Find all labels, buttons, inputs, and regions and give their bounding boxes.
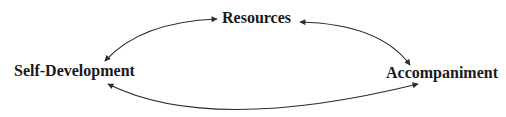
node-accompaniment: Accompaniment (386, 65, 498, 81)
arrow-self-development-accompaniment (108, 84, 418, 110)
arrow-resources-accompaniment (300, 22, 410, 65)
cycle-diagram: Resources Self-Development Accompaniment (0, 0, 506, 117)
node-resources: Resources (222, 10, 291, 26)
arrow-resources-self-development (105, 19, 217, 61)
node-self-development: Self-Development (14, 63, 135, 79)
